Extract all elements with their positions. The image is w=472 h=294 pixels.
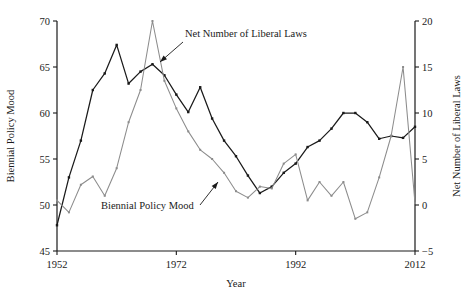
data-point-marker: [92, 175, 94, 177]
right-axis-tick-label: 10: [422, 108, 433, 119]
data-point-marker: [402, 66, 404, 68]
data-point-marker: [259, 186, 261, 188]
data-point-marker: [318, 139, 320, 141]
chart-canvas: 455055606570−5051015201952197219922012 N…: [0, 0, 472, 294]
x-axis-tick-label: 2012: [405, 259, 426, 270]
data-point-marker: [271, 187, 273, 189]
left-axis-tick-label: 55: [40, 154, 51, 165]
data-point-marker: [80, 184, 82, 186]
data-point-marker: [128, 121, 130, 123]
data-point-marker: [414, 126, 416, 128]
data-point-marker: [127, 82, 129, 84]
data-point-marker: [366, 121, 368, 123]
data-point-marker: [199, 149, 201, 151]
data-point-marker: [187, 130, 189, 132]
x-axis-tick-label: 1992: [285, 259, 306, 270]
data-point-marker: [56, 199, 58, 201]
data-point-marker: [354, 112, 356, 114]
data-point-marker: [366, 211, 368, 213]
data-point-marker: [104, 72, 106, 74]
data-point-marker: [342, 181, 344, 183]
data-point-marker: [294, 162, 296, 164]
data-point-marker: [223, 172, 225, 174]
left-axis-title: Biennial Policy Mood: [5, 89, 16, 182]
data-point-marker: [68, 211, 70, 213]
data-point-marker: [319, 181, 321, 183]
annotation-label: Biennial Policy Mood: [101, 200, 194, 211]
data-point-marker: [104, 195, 106, 197]
data-point-marker: [199, 86, 201, 88]
data-point-marker: [175, 107, 177, 109]
data-point-marker: [92, 89, 94, 91]
x-axis-tick-label: 1972: [166, 259, 187, 270]
data-point-marker: [330, 195, 332, 197]
data-point-marker: [414, 202, 416, 204]
data-point-marker: [295, 153, 297, 155]
data-point-marker: [223, 139, 225, 141]
x-axis-title: Year: [226, 278, 246, 289]
left-axis-tick-label: 65: [40, 62, 51, 73]
right-axis-tick-label: 0: [422, 200, 427, 211]
data-point-marker: [187, 111, 189, 113]
right-axis-title: Net Number of Liberal Laws: [451, 75, 462, 197]
data-point-marker: [378, 176, 380, 178]
data-point-marker: [175, 93, 177, 95]
data-point-marker: [259, 192, 261, 194]
data-point-marker: [151, 63, 153, 65]
annotation-label: Net Number of Liberal Laws: [185, 28, 307, 39]
data-point-marker: [116, 167, 118, 169]
data-point-marker: [139, 70, 141, 72]
data-point-marker: [163, 80, 165, 82]
data-point-marker: [283, 163, 285, 165]
data-point-marker: [247, 197, 249, 199]
data-point-marker: [402, 137, 404, 139]
left-axis-tick-label: 45: [40, 246, 51, 257]
data-point-marker: [56, 224, 58, 226]
data-point-marker: [235, 190, 237, 192]
data-point-marker: [283, 172, 285, 174]
data-point-marker: [211, 158, 213, 160]
left-axis-tick-label: 60: [40, 108, 51, 119]
x-axis-tick-label: 1952: [47, 259, 68, 270]
data-point-marker: [330, 127, 332, 129]
data-point-marker: [151, 20, 153, 22]
right-axis-tick-label: −5: [422, 246, 433, 257]
data-point-marker: [306, 146, 308, 148]
data-point-marker: [115, 44, 117, 46]
data-point-marker: [378, 138, 380, 140]
right-axis-tick-label: 15: [422, 62, 433, 73]
data-point-marker: [235, 155, 237, 157]
right-axis-tick-label: 5: [422, 154, 427, 165]
data-point-marker: [140, 89, 142, 91]
data-point-marker: [307, 199, 309, 201]
data-point-marker: [390, 135, 392, 137]
chart-figure: 455055606570−5051015201952197219922012 N…: [0, 0, 472, 294]
data-point-marker: [80, 139, 82, 141]
data-point-marker: [354, 218, 356, 220]
left-axis-tick-label: 50: [40, 200, 51, 211]
data-point-marker: [247, 174, 249, 176]
data-point-marker: [342, 112, 344, 114]
left-axis-tick-label: 70: [40, 16, 51, 27]
plot-area-background: [0, 0, 472, 294]
data-point-marker: [211, 117, 213, 119]
right-axis-tick-label: 20: [422, 16, 433, 27]
data-point-marker: [68, 176, 70, 178]
